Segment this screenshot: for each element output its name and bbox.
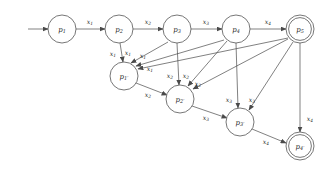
state-node-p1p[interactable]: p1′	[110, 62, 138, 90]
edge-p4-p2prime-label: x2	[183, 72, 190, 80]
edge-p2-p1prime-label: x1	[110, 50, 116, 58]
edge-p5-p3prime	[249, 42, 293, 110]
edge-p1prime-p2prime-label: x2	[145, 91, 152, 99]
edge-p4-p3prime	[236, 43, 238, 108]
state-node-p3p[interactable]: p3′	[226, 108, 254, 136]
edge-p5-p3prime-label: x3	[249, 96, 256, 104]
edge-p4-p2prime	[188, 41, 227, 86]
state-node-p3[interactable]: p3	[163, 15, 191, 43]
edge-p2-p3-label: x2	[145, 18, 152, 26]
edge-p1-p2-label: x1	[87, 18, 93, 26]
edge-p2prime-p3prime	[192, 106, 227, 118]
edge-p4-p5-label: x4	[265, 18, 272, 26]
edge-p1prime-p2prime	[136, 83, 167, 95]
state-node-p4[interactable]: p4	[222, 15, 250, 43]
edge-p3-p2prime-label: x2	[167, 72, 174, 80]
edge-p2prime-p3prime-label: x3	[203, 114, 210, 122]
automaton-diagram: p1p2p3p4p5p1′p2′p3′p4′ x1x2x3x4x1x1x1x1x…	[0, 0, 331, 169]
edge-p5-p1prime	[138, 38, 288, 69]
state-node-p2p[interactable]: p2′	[166, 85, 194, 113]
edge-p3-p4-label: x3	[203, 18, 210, 26]
state-node-p5[interactable]: p5	[286, 15, 314, 43]
edge-p3-p1prime	[131, 42, 168, 63]
edge-p2-p1prime	[120, 43, 123, 62]
edge-p4-p3prime-label: x3	[226, 96, 233, 104]
edges-layer	[28, 29, 300, 143]
edge-p3-p2prime	[177, 43, 179, 85]
edge-p5-p4prime-label: x4	[307, 115, 314, 123]
edge-p5-p1prime-label: x1	[147, 65, 153, 73]
state-node-p4p[interactable]: p4′	[286, 132, 314, 160]
state-diagram-canvas: p1p2p3p4p5p1′p2′p3′p4′ x1x2x3x4x1x1x1x1x…	[0, 0, 331, 169]
edge-p3prime-p4prime-label: x4	[263, 138, 270, 146]
edge-p4-p1prime-label: x1	[140, 52, 146, 60]
edge-p3-p1prime-label: x1	[125, 49, 131, 57]
edge-p5-p2prime-label: x2	[195, 80, 202, 88]
state-node-p1[interactable]: p1	[48, 15, 76, 43]
state-node-p2[interactable]: p2	[105, 15, 133, 43]
